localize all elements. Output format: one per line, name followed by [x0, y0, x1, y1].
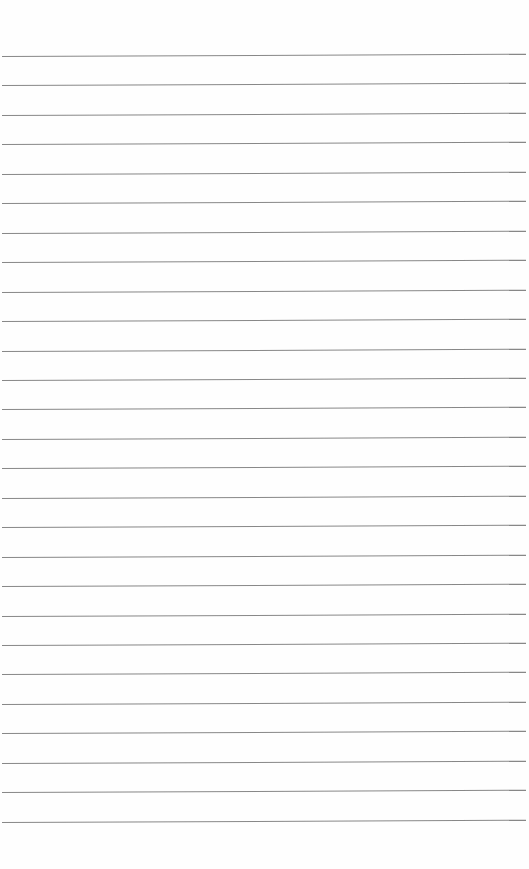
ruled-line: [2, 525, 526, 528]
ruled-line: [2, 672, 526, 675]
ruled-line: [2, 495, 526, 498]
ruled-line: [2, 613, 526, 616]
ruled-line: [2, 201, 526, 204]
ruled-line: [2, 554, 526, 557]
ruled-line: [2, 172, 526, 175]
ruled-line: [2, 289, 526, 292]
ruled-line: [2, 54, 526, 57]
ruled-line: [2, 407, 526, 410]
ruled-line: [2, 348, 526, 351]
ruled-line: [2, 83, 526, 86]
ruled-line: [2, 260, 526, 263]
ruled-line: [2, 378, 526, 381]
ruled-line: [2, 731, 526, 734]
ruled-line: [2, 702, 526, 705]
ruled-line: [2, 142, 526, 145]
ruled-line: [2, 761, 526, 764]
ruled-line: [2, 113, 526, 116]
ruled-line: [2, 584, 526, 587]
ruled-line: [2, 790, 526, 793]
lined-paper-page: [0, 0, 529, 869]
ruled-line: [2, 437, 526, 440]
ruled-line: [2, 230, 526, 233]
ruled-line: [2, 466, 526, 469]
ruled-line: [2, 319, 526, 322]
ruled-line: [2, 643, 526, 646]
ruled-line: [2, 819, 526, 822]
